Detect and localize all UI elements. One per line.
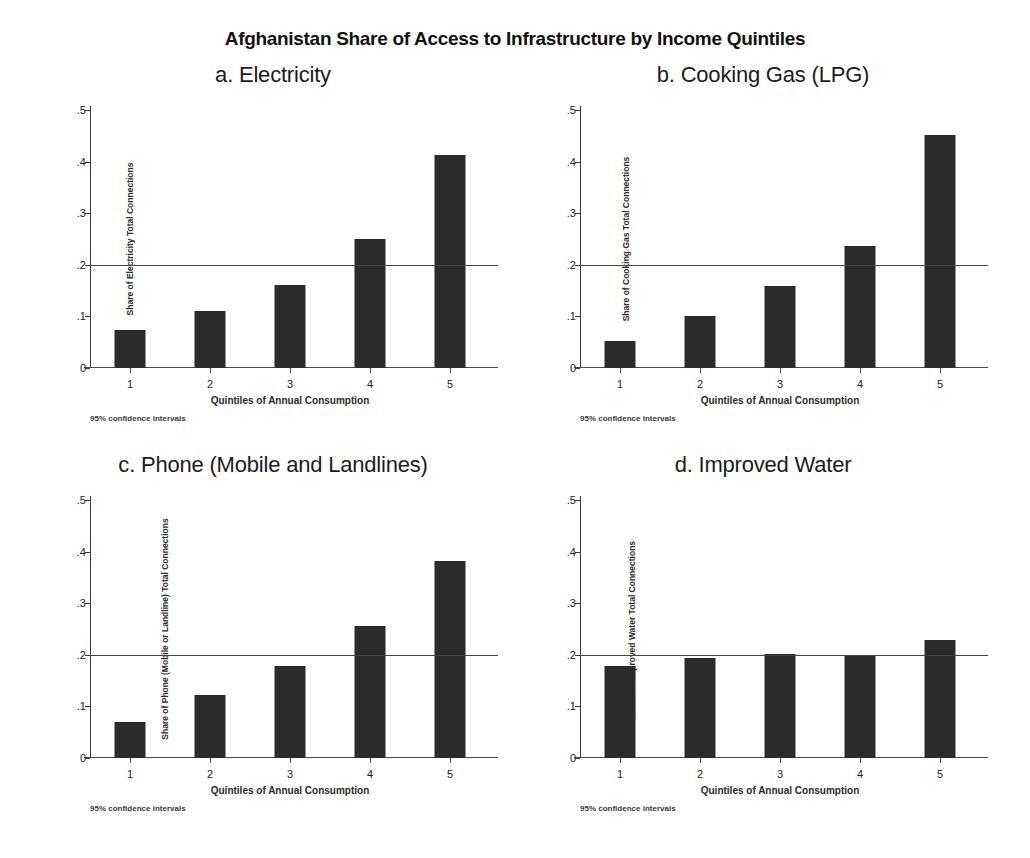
x-axis-tick-label: 1	[127, 768, 133, 780]
bar-group: 5	[900, 110, 980, 368]
bar-group: 4	[820, 500, 900, 758]
x-axis-tick-label: 3	[287, 378, 293, 390]
bar-group: 1	[580, 110, 660, 368]
x-axis-tick	[450, 368, 451, 373]
bar-group: 5	[410, 500, 490, 758]
y-axis-tick-label: .5	[567, 494, 576, 506]
x-axis-tick	[450, 758, 451, 763]
x-axis-tick	[130, 368, 131, 373]
x-axis-tick-label: 4	[857, 378, 863, 390]
bar-series: 12345	[580, 110, 980, 368]
bar-group: 2	[170, 500, 250, 758]
x-axis-tick	[940, 368, 941, 373]
x-axis-tick	[210, 758, 211, 763]
bar	[685, 658, 716, 758]
panel-title: c. Phone (Mobile and Landlines)	[38, 452, 508, 478]
y-axis-tick-label: .3	[77, 597, 86, 609]
bar	[275, 285, 306, 368]
x-axis-tick	[370, 368, 371, 373]
x-axis-tick	[940, 758, 941, 763]
plot-inner: 12345 0.1.2.3.4.5	[580, 110, 980, 368]
x-axis-tick-label: 1	[617, 768, 623, 780]
bar-series: 12345	[90, 110, 490, 368]
plot-inner: 12345 0.1.2.3.4.5	[580, 500, 980, 758]
reference-line	[580, 265, 988, 266]
bar	[115, 722, 146, 758]
bar	[605, 666, 636, 758]
x-axis-tick	[700, 758, 701, 763]
bar-group: 2	[170, 110, 250, 368]
y-axis-tick-label: .1	[567, 700, 576, 712]
plot-inner: 12345 0.1.2.3.4.5	[90, 500, 490, 758]
chart-note: 95% confidence intervals	[580, 804, 676, 813]
y-axis-tick-label: .5	[567, 104, 576, 116]
y-axis-tick-label: .4	[77, 546, 86, 558]
y-axis-tick-label: .1	[567, 310, 576, 322]
y-axis-tick-label: 0	[80, 362, 86, 374]
reference-line	[580, 655, 988, 656]
y-axis-tick-label: .4	[77, 156, 86, 168]
x-axis-tick-label: 1	[617, 378, 623, 390]
x-axis-tick	[370, 758, 371, 763]
bar	[765, 286, 796, 368]
x-axis-tick-label: 3	[287, 768, 293, 780]
y-axis-tick-label: .1	[77, 310, 86, 322]
x-axis-tick-label: 2	[697, 378, 703, 390]
panel-phone: c. Phone (Mobile and Landlines) Share of…	[38, 452, 508, 792]
x-axis-tick	[290, 758, 291, 763]
x-axis-tick	[780, 368, 781, 373]
bar-group: 2	[660, 500, 740, 758]
plot-area: Share of Phone (Mobile or Landline) Tota…	[90, 500, 490, 758]
bar	[195, 695, 226, 758]
y-axis-tick-label: .4	[567, 156, 576, 168]
bar-group: 4	[330, 110, 410, 368]
bar	[845, 655, 876, 758]
plot-area: Share of Cooking Gas Total Connections 1…	[580, 110, 980, 368]
y-axis-tick-label: 0	[80, 752, 86, 764]
panel-title: a. Electricity	[38, 62, 508, 88]
x-axis-tick	[620, 368, 621, 373]
bar	[435, 155, 466, 368]
panel-electricity: a. Electricity Share of Electricity Tota…	[38, 62, 508, 402]
plot-area: Share of Electricity Total Connections 1…	[90, 110, 490, 368]
x-axis-tick	[780, 758, 781, 763]
bar-group: 4	[820, 110, 900, 368]
x-axis-tick	[130, 758, 131, 763]
x-axis-tick-label: 3	[777, 378, 783, 390]
bar-series: 12345	[580, 500, 980, 758]
bar	[925, 640, 956, 758]
x-axis-tick-label: 5	[447, 768, 453, 780]
y-axis-tick-label: .2	[77, 259, 86, 271]
x-axis-tick-label: 4	[367, 768, 373, 780]
x-axis-tick-label: 4	[857, 768, 863, 780]
reference-line	[90, 655, 498, 656]
panel-title: b. Cooking Gas (LPG)	[528, 62, 998, 88]
y-axis-tick-label: .2	[567, 649, 576, 661]
x-axis-tick	[860, 758, 861, 763]
bar	[765, 654, 796, 758]
panel-title: d. Improved Water	[528, 452, 998, 478]
bar-group: 1	[90, 500, 170, 758]
bar	[685, 316, 716, 368]
x-axis-tick-label: 2	[207, 378, 213, 390]
bar-group: 5	[900, 500, 980, 758]
bar-group: 3	[250, 110, 330, 368]
bar	[195, 311, 226, 368]
bar-group: 2	[660, 110, 740, 368]
bar	[355, 626, 386, 758]
y-axis-tick-label: 0	[570, 362, 576, 374]
x-axis-tick	[620, 758, 621, 763]
bar	[115, 330, 146, 368]
x-axis-tick-label: 5	[937, 768, 943, 780]
reference-line	[90, 265, 498, 266]
y-axis-tick-label: .4	[567, 546, 576, 558]
chart-note: 95% confidence intervals	[580, 414, 676, 423]
y-axis-tick-label: .3	[567, 597, 576, 609]
bar	[925, 135, 956, 368]
bar-group: 4	[330, 500, 410, 758]
bar	[355, 239, 386, 368]
x-axis-tick-label: 5	[447, 378, 453, 390]
panel-cooking-gas: b. Cooking Gas (LPG) Share of Cooking Ga…	[528, 62, 998, 402]
x-axis-tick	[860, 368, 861, 373]
bar	[435, 561, 466, 758]
